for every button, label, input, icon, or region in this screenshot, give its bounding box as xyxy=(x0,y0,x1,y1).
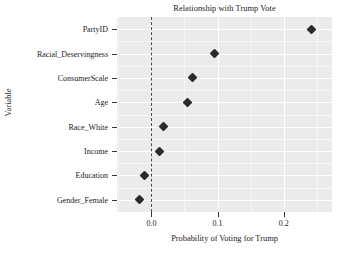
y-axis-tick-mark xyxy=(112,102,117,103)
gridline-horizontal-minor xyxy=(117,41,332,42)
gridline-horizontal-minor xyxy=(117,90,332,91)
x-axis-tick-mark xyxy=(151,212,152,217)
y-axis-tick-label: Race_White xyxy=(68,122,108,131)
x-axis-tick-mark xyxy=(218,212,219,217)
gridline-horizontal-major xyxy=(117,200,332,201)
y-axis-tick-mark xyxy=(112,54,117,55)
gridline-horizontal-major xyxy=(117,78,332,79)
x-axis-title: Probability of Voting for Trump xyxy=(117,234,332,243)
data-point[interactable] xyxy=(154,146,164,156)
gridline-horizontal-minor xyxy=(117,163,332,164)
data-point[interactable] xyxy=(307,24,317,34)
gridline-horizontal-minor xyxy=(117,115,332,116)
y-axis-tick-mark xyxy=(112,78,117,79)
gridline-horizontal-major xyxy=(117,102,332,103)
y-axis-tick-label: Racial_Deservingness xyxy=(37,49,108,58)
y-axis-tick-label: Age xyxy=(95,98,108,107)
zero-reference-line xyxy=(151,17,152,212)
plot-panel xyxy=(117,17,332,212)
x-axis-tick-label: 0.0 xyxy=(146,219,156,228)
y-axis-tick-label: Gender_Female xyxy=(57,195,108,204)
y-axis-tick-mark xyxy=(112,175,117,176)
gridline-horizontal-major xyxy=(117,29,332,30)
y-axis-tick-label: Education xyxy=(76,171,108,180)
data-point[interactable] xyxy=(187,73,197,83)
y-axis-tick-mark xyxy=(112,127,117,128)
x-axis-tick-mark xyxy=(284,212,285,217)
y-axis-title: Variable xyxy=(4,73,13,133)
gridline-horizontal-minor xyxy=(117,139,332,140)
gridline-horizontal-minor xyxy=(117,66,332,67)
chart-container: Relationship with Trump Vote PartyIDRaci… xyxy=(0,0,345,271)
gridline-horizontal-major xyxy=(117,127,332,128)
x-axis-tick-label: 0.2 xyxy=(279,219,289,228)
gridline-horizontal-major xyxy=(117,151,332,152)
data-point[interactable] xyxy=(159,122,169,132)
y-axis-tick-label: PartyID xyxy=(83,25,108,34)
y-axis-tick-mark xyxy=(112,200,117,201)
y-axis-tick-mark xyxy=(112,151,117,152)
gridline-horizontal-minor xyxy=(117,188,332,189)
chart-title: Relationship with Trump Vote xyxy=(117,4,332,13)
data-point[interactable] xyxy=(135,195,145,205)
y-axis-tick-label: ConsumerScale xyxy=(58,73,108,82)
x-axis-tick-label: 0.1 xyxy=(213,219,223,228)
gridline-horizontal-major xyxy=(117,54,332,55)
y-axis-tick-label: Income xyxy=(84,147,108,156)
y-axis-tick-mark xyxy=(112,29,117,30)
data-point[interactable] xyxy=(139,170,149,180)
